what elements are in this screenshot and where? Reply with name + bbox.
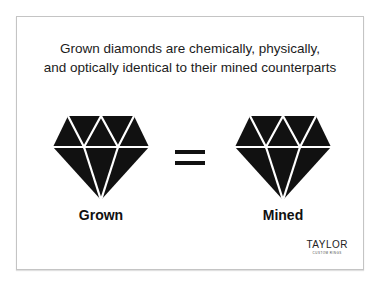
infographic-card: Grown diamonds are chemically, physicall… xyxy=(16,16,364,270)
headline: Grown diamonds are chemically, physicall… xyxy=(17,39,363,77)
headline-line-2: and optically identical to their mined c… xyxy=(17,58,363,77)
equals-icon xyxy=(175,150,205,172)
diamond-icon xyxy=(53,116,149,200)
headline-line-1: Grown diamonds are chemically, physicall… xyxy=(17,39,363,58)
brand-logo: TAYLOR CUSTOM RINGS xyxy=(306,240,348,255)
brand-tagline: CUSTOM RINGS xyxy=(306,251,348,255)
diamond-icon xyxy=(235,116,331,200)
grown-label: Grown xyxy=(61,207,141,223)
brand-name: TAYLOR xyxy=(306,240,348,250)
mined-label: Mined xyxy=(243,207,323,223)
